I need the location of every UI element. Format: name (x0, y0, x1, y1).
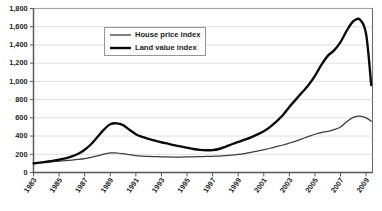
line-chart: 02004006008001,0001,2001,4001,6001,800 1… (0, 0, 382, 211)
y-tick-label: 1,200 (9, 58, 27, 67)
y-tick-label: 1,800 (9, 4, 27, 13)
chart-legend: House price index Land value index (105, 28, 206, 56)
y-tick-label: 400 (15, 131, 27, 140)
y-tick-label: 200 (15, 150, 27, 159)
y-tick-label: 1,400 (9, 40, 27, 49)
legend-label-house-price-index: House price index (135, 30, 201, 39)
chart-container: 02004006008001,0001,2001,4001,6001,800 1… (0, 0, 382, 211)
y-tick-label: 1,000 (9, 77, 27, 86)
y-tick-label: 800 (15, 95, 27, 104)
legend-label-land-value-index: Land value index (135, 43, 197, 52)
y-tick-label: 600 (15, 113, 27, 122)
y-tick-label: 0 (23, 168, 27, 177)
y-tick-label: 1,600 (9, 22, 27, 31)
